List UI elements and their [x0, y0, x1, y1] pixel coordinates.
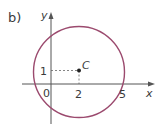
x-tick-5: 5 [119, 88, 126, 101]
coordinate-diagram: b) y x C 1 0 2 5 [0, 0, 162, 129]
center-point [77, 69, 81, 73]
x-axis-arrow-icon [148, 82, 155, 87]
x-axis-label: x [145, 87, 153, 100]
y-tick-1: 1 [40, 65, 47, 78]
y-axis-label: y [40, 9, 48, 22]
part-label: b) [8, 10, 21, 25]
center-label: C [82, 59, 90, 72]
origin-label: 0 [43, 87, 50, 100]
y-axis-arrow-icon [49, 12, 54, 19]
x-tick-2: 2 [75, 88, 82, 101]
